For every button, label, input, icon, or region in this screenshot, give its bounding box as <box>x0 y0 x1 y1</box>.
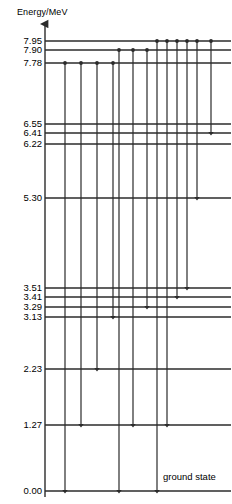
transition-origin-dot <box>63 61 67 65</box>
transition-origin-dot <box>165 39 169 43</box>
energy-levels-group <box>45 41 231 491</box>
transition-origin-dot <box>111 61 115 65</box>
transition-origin-dot <box>117 48 121 52</box>
transition-origin-dot <box>195 39 199 43</box>
energy-level-label: 2.23 <box>0 364 42 374</box>
energy-level-label: 0.00 <box>0 486 42 496</box>
energy-level-label: 3.13 <box>0 312 42 322</box>
transition-origin-dot <box>185 39 189 43</box>
transition-origin-dot <box>155 39 159 43</box>
energy-level-label: 7.78 <box>0 58 42 68</box>
transition-origin-dot <box>131 48 135 52</box>
energy-level-label: 5.30 <box>0 193 42 203</box>
energy-level-diagram: Energy/MeV 7.957.907.786.556.416.225.303… <box>0 0 232 504</box>
ground-state-label: ground state <box>163 472 216 482</box>
transition-origin-dot <box>209 39 213 43</box>
transition-origin-dot <box>145 48 149 52</box>
transition-origin-dot <box>79 61 83 65</box>
transitions-group <box>63 39 213 491</box>
transition-origin-dot <box>95 61 99 65</box>
transition-origin-dot <box>175 39 179 43</box>
energy-level-label: 6.41 <box>0 128 42 138</box>
energy-level-label: 1.27 <box>0 420 42 430</box>
energy-level-label: 6.22 <box>0 139 42 149</box>
energy-level-label: 7.90 <box>0 45 42 55</box>
